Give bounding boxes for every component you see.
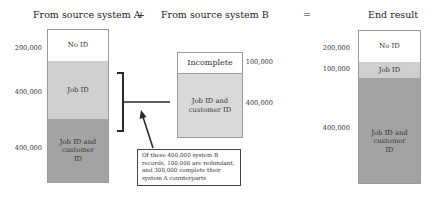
segment-no-id: No ID bbox=[359, 31, 420, 62]
count-label: 100,000 bbox=[229, 58, 273, 66]
stacked-column-end-result: No ID Job ID Job ID and customer ID bbox=[358, 30, 421, 184]
count-label: 100,000 bbox=[306, 65, 350, 73]
count-label: 400,000 bbox=[306, 124, 350, 132]
count-label: 400,000 bbox=[229, 99, 273, 107]
callout-note: Of these 400,000 system B records, 100,0… bbox=[137, 149, 241, 186]
segment-job-id: Job ID bbox=[359, 62, 420, 78]
count-label: 200,000 bbox=[306, 44, 350, 52]
segment-job-id-and-customer-id: Job ID and customer ID bbox=[359, 78, 420, 183]
